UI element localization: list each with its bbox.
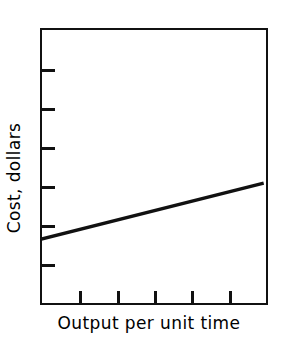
y-axis-tick <box>42 147 55 150</box>
y-axis-tick <box>42 225 55 228</box>
y-axis-tick <box>42 108 55 111</box>
y-axis-label: Cost, dollars <box>1 40 27 317</box>
cost-line <box>42 183 262 238</box>
x-axis-tick <box>191 291 194 303</box>
data-line-svg <box>42 30 266 303</box>
x-axis-tick <box>229 291 232 303</box>
y-axis-tick <box>42 186 55 189</box>
x-axis-tick <box>117 291 120 303</box>
y-axis-tick <box>42 264 55 267</box>
x-axis-tick <box>79 291 82 303</box>
plot-area <box>40 28 268 305</box>
x-axis-label: Output per unit time <box>18 313 280 333</box>
y-axis-tick <box>42 69 55 72</box>
chart-figure: Cost, dollars Output per unit time <box>0 0 292 345</box>
x-axis-tick <box>154 291 157 303</box>
